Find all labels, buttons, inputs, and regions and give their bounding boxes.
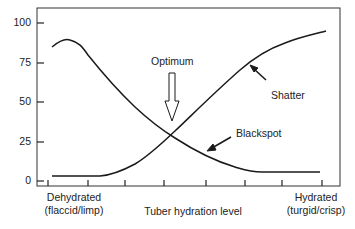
y-tick-label-25: 25 <box>9 135 31 147</box>
optimum-arrow-icon <box>165 73 179 121</box>
x-right-label-line2: (turgid/crisp) <box>281 204 351 217</box>
blackspot-arrow-line <box>212 137 231 148</box>
x-axis-title: Tuber hydration level <box>138 205 248 218</box>
x-left-label-line2: (flaccid/limp) <box>38 204 110 217</box>
shatter-curve <box>52 31 326 176</box>
x-right-label: Hydrated (turgid/crisp) <box>281 191 351 217</box>
shatter-label: Shatter <box>271 89 305 101</box>
x-right-label-line1: Hydrated <box>281 191 351 204</box>
x-left-label: Dehydrated (flaccid/limp) <box>38 191 110 217</box>
x-ticks <box>48 180 322 186</box>
y-ticks <box>37 23 44 181</box>
y-tick-label-100: 100 <box>9 16 31 28</box>
optimum-label: Optimum <box>151 55 194 67</box>
blackspot-label: Blackspot <box>236 127 282 139</box>
blackspot-arrowhead-icon <box>207 144 216 151</box>
x-left-label-line1: Dehydrated <box>38 191 110 204</box>
y-tick-label-50: 50 <box>9 95 31 107</box>
y-tick-label-75: 75 <box>9 56 31 68</box>
y-tick-label-0: 0 <box>9 174 31 186</box>
